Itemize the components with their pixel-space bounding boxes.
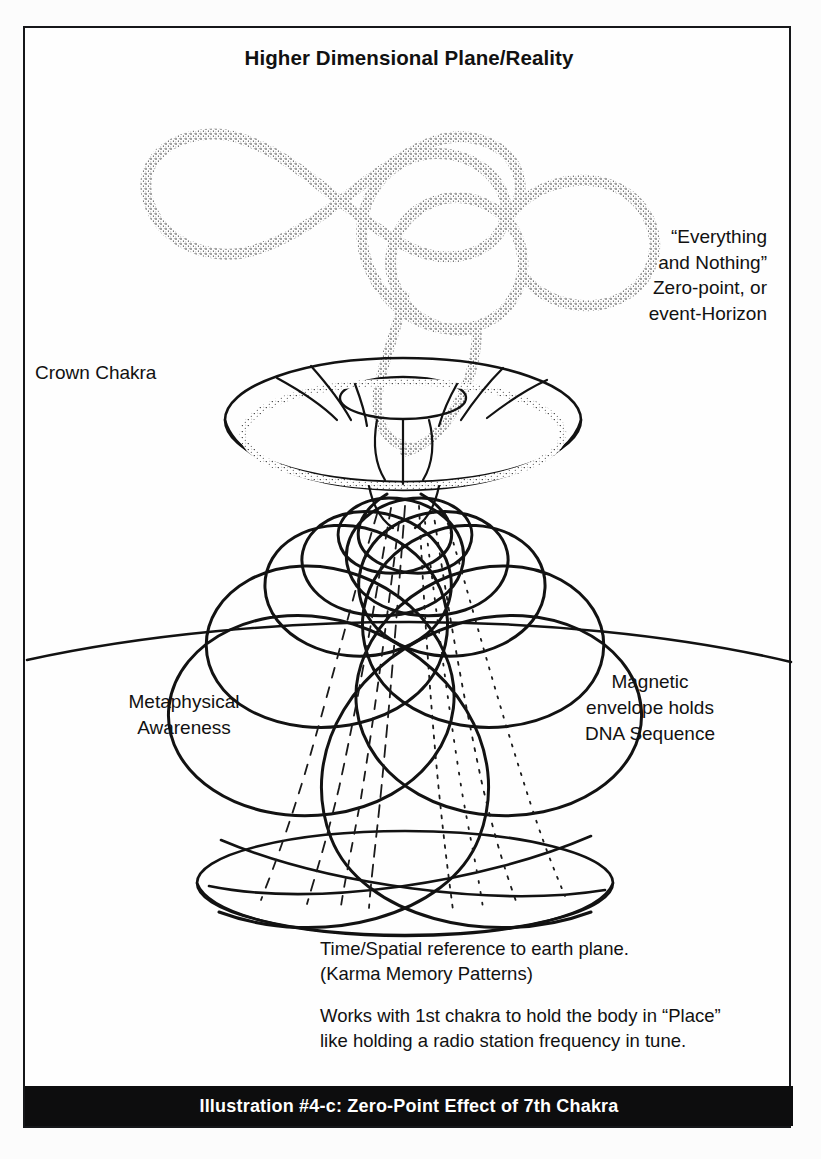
note-2-line-2: like holding a radio station frequency i…: [320, 1028, 790, 1053]
zero-point-line-1: “Everything: [517, 224, 767, 250]
magnetic-envelope-label: Magnetic envelope holds DNA Sequence: [525, 669, 775, 747]
metaphysical-line-2: Awareness: [69, 715, 299, 741]
magnetic-line-2: envelope holds: [525, 695, 775, 721]
zero-point-line-3: Zero-point, or: [517, 275, 767, 301]
illustration-caption-bar: Illustration #4-c: Zero-Point Effect of …: [25, 1086, 793, 1126]
crown-chakra-label: Crown Chakra: [35, 361, 275, 385]
illustration-page: Higher Dimensional Plane/Reality “Everyt…: [0, 0, 821, 1159]
magnetic-line-3: DNA Sequence: [525, 721, 775, 747]
magnetic-line-1: Magnetic: [525, 669, 775, 695]
illustration-caption-text: Illustration #4-c: Zero-Point Effect of …: [199, 1096, 618, 1117]
zero-point-line-4: event-Horizon: [517, 301, 767, 327]
note-1-line-2: (Karma Memory Patterns): [320, 961, 770, 986]
note-1-line-1: Time/Spatial reference to earth plane.: [320, 936, 770, 961]
illustration-frame: Higher Dimensional Plane/Reality “Everyt…: [23, 26, 791, 1128]
note-paragraph-1: Time/Spatial reference to earth plane. (…: [320, 936, 770, 986]
metaphysical-awareness-label: Metaphysical Awareness: [69, 689, 299, 741]
note-paragraph-2: Works with 1st chakra to hold the body i…: [320, 1003, 790, 1053]
zero-point-line-2: and Nothing”: [517, 250, 767, 276]
zero-point-label: “Everything and Nothing” Zero-point, or …: [517, 224, 767, 326]
page-title: Higher Dimensional Plane/Reality: [25, 46, 793, 70]
metaphysical-line-1: Metaphysical: [69, 689, 299, 715]
note-2-line-1: Works with 1st chakra to hold the body i…: [320, 1003, 790, 1028]
